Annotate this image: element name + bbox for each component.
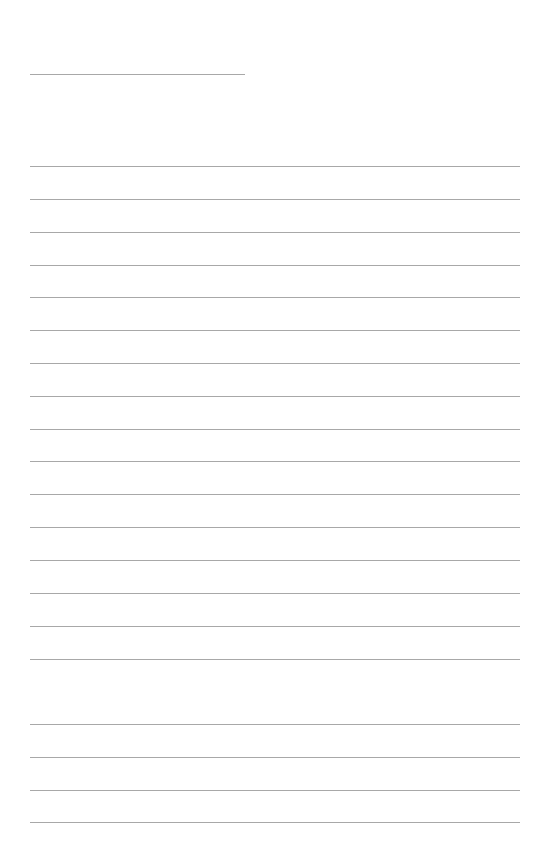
ruled-line (30, 363, 520, 364)
ruled-line (30, 199, 520, 200)
ruled-line (30, 724, 520, 725)
ruled-line (30, 626, 520, 627)
ruled-line (30, 822, 520, 823)
ruled-line (30, 265, 520, 266)
header-blank-line (30, 74, 245, 75)
ruled-line (30, 757, 520, 758)
ruled-line (30, 659, 520, 660)
ruled-line (30, 461, 520, 462)
ruled-line (30, 396, 520, 397)
ruled-line (30, 494, 520, 495)
ruled-line (30, 232, 520, 233)
ruled-line (30, 790, 520, 791)
ruled-line (30, 527, 520, 528)
ruled-line (30, 429, 520, 430)
ruled-line (30, 297, 520, 298)
ruled-line (30, 593, 520, 594)
ruled-line (30, 166, 520, 167)
ruled-line (30, 560, 520, 561)
ruled-line (30, 330, 520, 331)
